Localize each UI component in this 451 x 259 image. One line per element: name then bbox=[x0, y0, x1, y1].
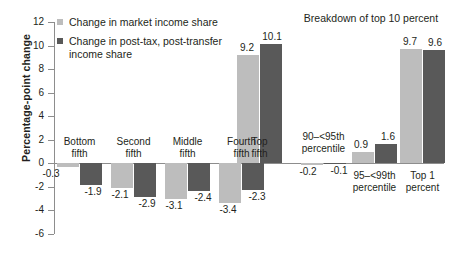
y-tick-label: 8 bbox=[20, 64, 44, 74]
value-label-second-fifth-post-tax-income: -2.9 bbox=[132, 199, 162, 209]
value-label-middle-fifth-post-tax-income: -2.4 bbox=[188, 193, 218, 203]
bar-fourth-fifth-post-tax-income bbox=[242, 163, 264, 190]
value-label-top-fifth-market-income: 9.2 bbox=[232, 43, 262, 53]
y-tick-label: 2 bbox=[20, 135, 44, 145]
value-label-second-fifth-market-income: -2.1 bbox=[105, 190, 135, 200]
value-label-middle-fifth-market-income: -3.1 bbox=[159, 201, 189, 211]
category-label-line1: 90–<95th bbox=[287, 131, 361, 143]
y-tick-label: -2 bbox=[20, 182, 44, 192]
value-label-top-1-percent-post-tax-income: 9.6 bbox=[420, 38, 450, 48]
bar-bottom-fifth-post-tax-income bbox=[80, 163, 102, 185]
category-label-line2: percentile bbox=[287, 143, 361, 155]
bar-second-fifth-post-tax-income bbox=[134, 163, 156, 197]
bar-p95-p99-post-tax-income bbox=[375, 144, 397, 163]
y-tick-label: 0 bbox=[20, 158, 44, 168]
bar-middle-fifth-market-income bbox=[165, 163, 187, 199]
value-label-p95-p99-post-tax-income: 1.6 bbox=[373, 132, 403, 142]
y-tick-label: 6 bbox=[20, 88, 44, 98]
y-tick-label: -4 bbox=[20, 205, 44, 215]
value-label-bottom-fifth-post-tax-income: -1.9 bbox=[78, 187, 108, 197]
bar-top-1-percent-post-tax-income bbox=[423, 50, 445, 163]
bar-fourth-fifth-market-income bbox=[219, 163, 241, 203]
value-label-bottom-fifth-market-income: -0.3 bbox=[36, 169, 66, 179]
bar-middle-fifth-post-tax-income bbox=[188, 163, 210, 191]
category-label-top-fifth: Topfifth bbox=[223, 136, 297, 159]
value-label-fourth-fifth-post-tax-income: -2.3 bbox=[242, 192, 272, 202]
value-label-p90-p95-market-income: -0.2 bbox=[293, 167, 323, 177]
bar-bottom-fifth-market-income bbox=[57, 163, 79, 167]
category-label-top-1-percent: Top 1percent bbox=[386, 170, 451, 193]
category-label-line2: fifth bbox=[223, 148, 297, 160]
bar-p90-p95-market-income bbox=[301, 163, 323, 165]
category-label-p90-p95: 90–<95thpercentile bbox=[287, 131, 361, 154]
category-label-line1: Top 1 bbox=[386, 170, 451, 182]
bar-chart: Percentage-point change 121086420-2-4-6 … bbox=[0, 0, 451, 259]
y-tick-label: 4 bbox=[20, 111, 44, 121]
y-tick-label: -6 bbox=[20, 229, 44, 239]
plot-area: -0.3-1.9-2.1-2.9-3.1-2.4-3.4-2.39.210.1-… bbox=[54, 22, 451, 234]
bar-second-fifth-market-income bbox=[111, 163, 133, 188]
category-label-line1: Top bbox=[223, 136, 297, 148]
bar-p95-p99-market-income bbox=[352, 152, 374, 163]
y-tick-label: 12 bbox=[20, 17, 44, 27]
value-label-fourth-fifth-market-income: -3.4 bbox=[213, 205, 243, 215]
y-tick-label: 10 bbox=[20, 41, 44, 51]
bar-top-1-percent-market-income bbox=[400, 49, 422, 163]
value-label-top-fifth-post-tax-income: 10.1 bbox=[257, 32, 287, 42]
bar-p90-p95-post-tax-income bbox=[324, 163, 346, 164]
category-label-line2: percent bbox=[386, 182, 451, 194]
